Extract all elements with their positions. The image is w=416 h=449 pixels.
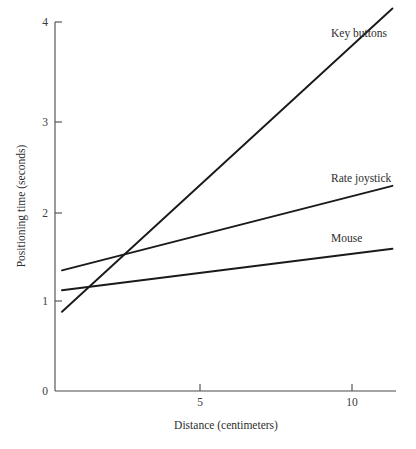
y-tick-label-0: 0 bbox=[42, 385, 48, 397]
x-tick-label-5: 5 bbox=[197, 396, 203, 408]
series-label-rate-joystick: Rate joystick bbox=[331, 172, 392, 185]
chart-page: 4 3 2 1 0 5 10 Distance (centimeters) Po… bbox=[0, 0, 416, 449]
x-axis-title: Distance (centimeters) bbox=[174, 419, 278, 432]
series-label-key-buttons: Key buttons bbox=[331, 27, 387, 40]
x-tick-label-10: 10 bbox=[346, 396, 358, 408]
series-label-mouse: Mouse bbox=[331, 232, 362, 244]
line-chart: 4 3 2 1 0 5 10 Distance (centimeters) Po… bbox=[0, 0, 416, 449]
y-tick-label-4: 4 bbox=[42, 16, 48, 28]
y-tick-label-1: 1 bbox=[42, 295, 48, 307]
y-axis-title: Positioning time (seconds) bbox=[15, 145, 28, 268]
y-tick-label-3: 3 bbox=[42, 116, 48, 128]
y-tick-label-2: 2 bbox=[42, 207, 48, 219]
chart-background bbox=[0, 0, 416, 449]
